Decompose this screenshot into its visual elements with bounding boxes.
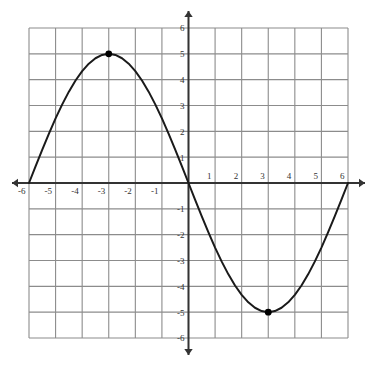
x-tick-label: 4	[287, 171, 292, 181]
x-tick-label: -6	[18, 186, 26, 196]
y-tick-label: 4	[180, 75, 185, 85]
y-tick-label: -3	[177, 256, 185, 266]
x-tick-label: -5	[45, 186, 53, 196]
x-tick-label: -4	[71, 186, 79, 196]
x-tick-label: -2	[124, 186, 132, 196]
coordinate-plane-graph: -6-5-4-3-2-1123456654321-1-2-3-4-5-6	[0, 0, 379, 368]
y-tick-label: 3	[180, 101, 185, 111]
y-tick-label: -4	[177, 282, 185, 292]
x-tick-label: -3	[98, 186, 106, 196]
x-tick-label: 1	[207, 171, 212, 181]
x-tick-label: 3	[260, 171, 265, 181]
x-tick-label: 6	[340, 171, 345, 181]
y-tick-label: 5	[180, 49, 185, 59]
marked-point-minimum	[265, 309, 272, 316]
y-tick-label: -6	[177, 333, 185, 343]
graph-canvas: -6-5-4-3-2-1123456654321-1-2-3-4-5-6	[0, 0, 379, 368]
y-tick-label: 6	[180, 23, 185, 33]
y-tick-label: -5	[177, 308, 185, 318]
x-tick-label: -1	[151, 186, 159, 196]
y-tick-label: -2	[177, 230, 185, 240]
y-tick-label: -1	[177, 204, 185, 214]
x-tick-label: 2	[234, 171, 239, 181]
marked-point-maximum	[105, 50, 112, 57]
y-tick-label: 2	[180, 127, 185, 137]
x-tick-label: 5	[313, 171, 318, 181]
